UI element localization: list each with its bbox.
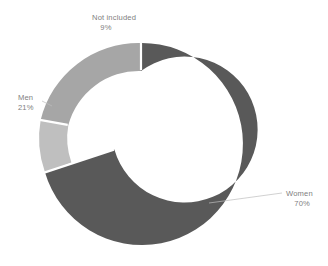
label-women-value: 70%	[294, 199, 310, 208]
slice-men[interactable]	[41, 43, 141, 125]
label-men-name: Men	[18, 93, 33, 102]
label-not-included-name: Not included	[92, 13, 136, 22]
label-not-included-value: 9%	[100, 23, 111, 32]
donut-chart: Women 70% Men 21% Not included 9%	[0, 0, 328, 266]
label-men-value: 21%	[18, 103, 34, 112]
label-women-name: Women	[286, 189, 313, 198]
donut-chart-canvas: Women 70% Men 21% Not included 9%	[0, 0, 328, 266]
